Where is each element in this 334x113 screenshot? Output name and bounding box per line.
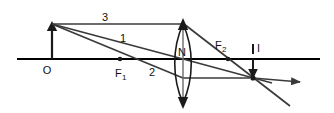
optics-ray-diagram: O F 1 F 2 N I 3 1 2: [0, 0, 334, 113]
focal-point-2-dot: [226, 57, 231, 62]
label-focal-point-1: F 1: [115, 67, 127, 82]
label-ray-1: 1: [120, 32, 126, 44]
label-image-I: I: [257, 42, 260, 54]
ray-3-parallel-through-f2: [52, 24, 290, 106]
svg-text:1: 1: [122, 73, 127, 82]
ray-diagram-canvas: O F 1 F 2 N I 3 1 2: [0, 0, 334, 113]
label-ray-3: 3: [102, 11, 108, 23]
label-lens-center-N: N: [178, 46, 186, 58]
converging-lens: [175, 18, 192, 109]
image-arrow: [248, 59, 258, 79]
svg-text:2: 2: [222, 45, 227, 54]
label-object-O: O: [43, 64, 52, 76]
svg-text:F: F: [215, 39, 222, 51]
svg-text:F: F: [115, 67, 122, 79]
focal-point-1-dot: [118, 57, 123, 62]
label-ray-2: 2: [149, 66, 155, 78]
ray-1-through-center: [52, 24, 272, 83]
object-arrow: [47, 21, 57, 59]
